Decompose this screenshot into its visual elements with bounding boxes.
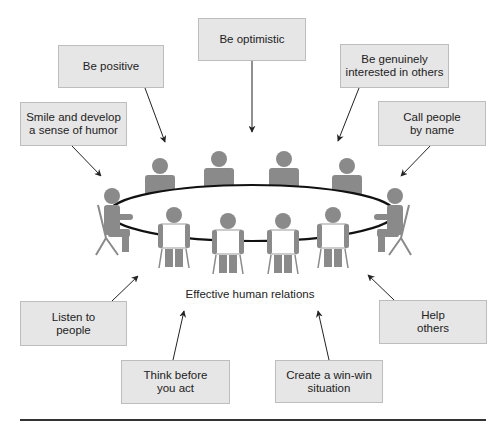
arrow-win-win [318,311,329,360]
box-help-others: Help others [379,300,487,344]
box-text-line-1: Call people [403,111,461,124]
box-text: Be positive [83,60,139,73]
arrow-be-genuinely [338,88,359,141]
box-text-line-2: people [52,324,95,337]
box-be-positive: Be positive [58,45,164,88]
box-listen: Listen to people [20,301,127,346]
box-text-line-1: Smile and develop [26,111,121,124]
person-figure [204,151,234,190]
arrow-be-positive [145,88,165,142]
box-text-line-1: Be genuinely [346,53,444,66]
arrow-call-by-name [401,145,431,176]
arrow-help [368,275,394,300]
box-text-line-2: by name [403,124,461,137]
box-text-line-1: Listen to [52,311,95,324]
box-be-genuinely-interested: Be genuinely interested in others [340,44,449,88]
box-text-line-1: Help [417,309,449,322]
box-text: Be optimistic [219,33,284,46]
box-text-line-2: a sense of humor [26,124,121,137]
box-think-before: Think before you act [121,360,230,404]
arrow-listen [112,276,138,301]
box-win-win: Create a win-win situation [275,360,383,403]
arrow-smile [72,146,101,176]
person-figure [269,151,299,190]
bottom-divider [20,419,486,421]
box-smile-humor: Smile and develop a sense of humor [20,102,127,146]
box-text-line-2: you act [144,382,208,395]
box-text-line-1: Create a win-win [286,369,372,382]
box-text-line-1: Think before [144,369,208,382]
box-be-optimistic: Be optimistic [198,18,306,61]
box-text-line-2: others [417,322,449,335]
center-label: Effective human relations [160,288,340,300]
arrow-think [173,311,184,360]
box-text-line-2: situation [286,382,372,395]
box-text-line-2: interested in others [346,66,444,79]
round-table [109,185,395,241]
box-call-by-name: Call people by name [378,101,486,146]
